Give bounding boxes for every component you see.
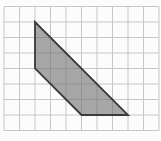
graph-paper-figure [0,0,161,141]
grid-canvas [0,0,161,141]
